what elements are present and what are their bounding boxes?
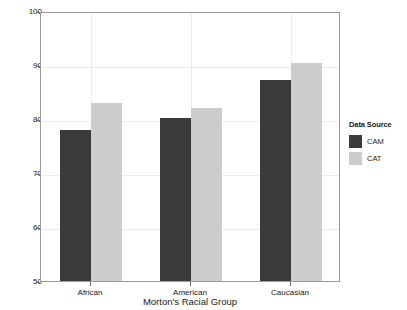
x-tick-mark (290, 282, 291, 286)
bar-american-cam (160, 118, 191, 281)
y-axis-title-text: Average Cranial Capacity in Cubic Inches (0, 0, 16, 16)
x-axis-title: Morton's Racial Group (40, 296, 340, 307)
legend-label: CAT (367, 154, 381, 163)
legend-swatch-cat (349, 152, 362, 165)
y-tick-mark (36, 282, 40, 283)
bar-american-cat (191, 108, 222, 281)
legend-item-cam[interactable]: CAM (349, 134, 407, 149)
legend-entries: CAMCAT (349, 134, 407, 166)
plot-area (40, 12, 340, 282)
bar-caucasian-cam (260, 80, 291, 281)
legend-swatch-cam (349, 135, 362, 148)
bar-african-cat (91, 103, 122, 281)
x-tick-mark (190, 282, 191, 286)
bar-african-cam (60, 130, 91, 281)
bar-chart: Average Cranial Capacity in Cubic Inches… (0, 0, 407, 310)
bar-caucasian-cat (291, 63, 322, 281)
y-axis-title: Average Cranial Capacity in Cubic Inches (0, 0, 16, 16)
legend: Data Source CAMCAT (349, 120, 407, 168)
x-tick-mark (90, 282, 91, 286)
legend-label: CAM (367, 137, 384, 146)
legend-item-cat[interactable]: CAT (349, 151, 407, 166)
legend-title: Data Source (349, 120, 407, 129)
